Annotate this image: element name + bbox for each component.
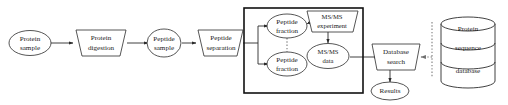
node-results: Results (371, 82, 409, 100)
node-peptide-separation: Peptide separation (198, 30, 243, 56)
database-label-line3: database (456, 67, 480, 75)
peptide-separation-label-line2: separation (206, 44, 236, 52)
peptide-sample-label-line2: sample (154, 44, 174, 52)
database-cylinder-body (441, 24, 495, 88)
database-search-label-line1: Database (383, 48, 409, 56)
node-protein-sample: Protein sample (9, 31, 51, 56)
database-label-line1: Protein (458, 25, 479, 33)
msms-data-label-line2: data (323, 57, 334, 64)
msms-experiment-label-line1: MS/MS (322, 13, 343, 20)
node-msms-experiment: MS/MS experiment (307, 11, 358, 32)
node-msms-data: MS/MS data (307, 44, 349, 69)
peptide-fraction-top-label-line1: Peptide (276, 18, 297, 26)
node-database-search: Database search (372, 44, 420, 70)
node-peptide-fraction-bottom: Peptide fraction (267, 52, 307, 76)
protein-sample-label-line1: Protein (20, 35, 41, 43)
node-protein-digestion: Protein digestion (76, 30, 126, 56)
msms-data-label-line1: MS/MS (318, 48, 339, 55)
database-label-line2: sequence (455, 44, 481, 52)
protein-digestion-label-line2: digestion (88, 44, 114, 52)
node-peptide-fraction-top: Peptide fraction (267, 14, 307, 38)
protein-digestion-label-line1: Protein (91, 34, 112, 42)
msms-experiment-label-line2: experiment (317, 22, 347, 29)
flowchart-canvas: Protein sample Protein digestion Peptide… (0, 0, 508, 105)
database-search-label-line2: search (387, 58, 406, 66)
peptide-fraction-top-label-line2: fraction (276, 27, 299, 35)
peptide-sample-label-line1: Peptide (153, 35, 174, 43)
results-label: Results (380, 87, 401, 95)
protein-sample-label-line2: sample (20, 44, 40, 52)
peptide-fraction-bottom-label-line1: Peptide (276, 56, 297, 64)
node-peptide-sample: Peptide sample (147, 29, 181, 57)
peptide-fraction-bottom-label-line2: fraction (276, 65, 299, 73)
node-protein-sequence-database: Protein sequence database (441, 17, 495, 88)
proteomics-workflow-diagram: Protein sample Protein digestion Peptide… (0, 0, 508, 105)
peptide-separation-label-line1: Peptide (210, 34, 231, 42)
